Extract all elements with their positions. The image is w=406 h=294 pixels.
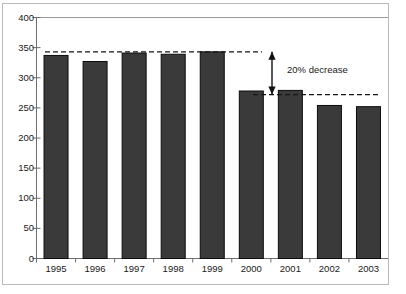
y-tick-label: 150 [3,163,34,173]
x-tick-label-1998: 1998 [153,264,193,274]
bar-2002 [317,105,341,258]
y-tick-label-text: 200 [6,133,34,143]
bar-1996 [83,61,107,258]
bar-chart-plot [0,0,406,294]
bar-1998 [161,54,185,258]
x-tick-label-2003: 2003 [348,264,388,274]
chart-figure: 050100150200250300350400 199519961997199… [0,0,406,294]
x-axis-ticks [37,259,349,263]
decrease-annotation-label: 20% decrease [287,64,348,75]
y-tick-label-text: 400 [6,13,34,23]
y-tick-label: 350 [3,43,34,53]
y-tick-label-text: 350 [6,43,34,53]
bar-2000 [239,91,263,258]
x-tick-label-1996: 1996 [75,264,115,274]
y-tick-label: 100 [3,193,34,203]
y-tick-label: 300 [3,73,34,83]
x-tick-label-1999: 1999 [192,264,232,274]
y-tick-label: 250 [3,103,34,113]
bar-1995 [44,55,68,258]
y-tick-label-text: 150 [6,163,34,173]
y-tick-label-text: 50 [6,223,34,233]
bar-1999 [200,52,224,259]
y-tick-label: 400 [3,13,34,23]
y-tick-label-text: 300 [6,73,34,83]
x-tick-label-1995: 1995 [36,264,76,274]
bar-1997 [122,53,146,258]
decrease-arrow-head-bottom [268,87,275,95]
y-tick-label: 50 [3,223,34,233]
bar-2001 [278,90,302,258]
bars-layer [44,52,380,259]
x-tick-label-2002: 2002 [309,264,349,274]
y-tick-label: 0 [3,254,34,264]
x-tick-label-1997: 1997 [114,264,154,274]
bar-2003 [356,107,380,259]
y-tick-label-text: 0 [6,254,34,264]
x-tick-label-2001: 2001 [270,264,310,274]
x-tick-label-2000: 2000 [231,264,271,274]
y-tick-label: 200 [3,133,34,143]
y-tick-label-text: 250 [6,103,34,113]
y-tick-label-text: 100 [6,193,34,203]
decrease-arrow-head-top [268,52,275,60]
